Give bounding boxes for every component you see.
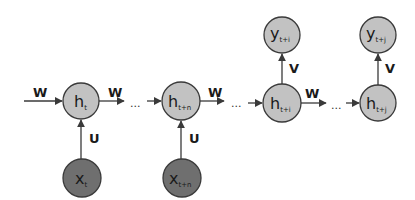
node-h-t-plus-j: ht+j bbox=[360, 85, 396, 121]
node-x-tn-main: x bbox=[169, 169, 178, 188]
node-y-tj-sub: t+j bbox=[375, 36, 386, 44]
node-x-t-sub: t bbox=[84, 181, 87, 189]
node-h-t: ht bbox=[63, 83, 99, 119]
edge-u-2: U bbox=[181, 121, 200, 159]
label-v-1: V bbox=[289, 61, 299, 76]
edge-v-1: V bbox=[282, 54, 299, 84]
node-h-ti-sub: t+i bbox=[280, 106, 291, 114]
node-h-t-plus-n: ht+n bbox=[162, 82, 200, 120]
ellipsis-1: ... bbox=[130, 97, 141, 110]
label-w-input: W bbox=[33, 85, 47, 100]
node-h-tj-main: h bbox=[366, 94, 376, 113]
node-y-ti-main: y bbox=[270, 24, 279, 43]
node-h-tn-main: h bbox=[168, 92, 178, 111]
label-w-1: W bbox=[108, 85, 122, 100]
node-y-t-plus-i: yt+i bbox=[264, 17, 300, 53]
edge-w-hti-out: W ... bbox=[301, 86, 342, 112]
node-x-t-main: x bbox=[75, 169, 84, 188]
node-x-tn-sub: t+n bbox=[178, 181, 191, 189]
edge-w-htn-out: W ... bbox=[200, 85, 242, 110]
node-x-t-plus-n: xt+n bbox=[163, 159, 201, 197]
node-y-t-plus-j: yt+j bbox=[360, 17, 396, 53]
ellipsis-3: ... bbox=[331, 99, 342, 112]
edge-u-1: U bbox=[81, 120, 100, 159]
node-h-t-main: h bbox=[74, 92, 84, 111]
edge-v-2: V bbox=[378, 54, 395, 85]
node-h-t-plus-i: ht+i bbox=[263, 84, 301, 122]
edge-w-ht-out: W ... bbox=[99, 85, 141, 110]
node-h-tn-sub: t+n bbox=[178, 104, 191, 112]
label-w-3: W bbox=[305, 86, 319, 101]
label-w-2: W bbox=[208, 85, 222, 100]
label-v-2: V bbox=[385, 61, 395, 76]
ellipsis-2: ... bbox=[231, 97, 242, 110]
node-h-ti-main: h bbox=[270, 94, 280, 113]
node-x-t: xt bbox=[63, 159, 101, 197]
label-u-1: U bbox=[89, 131, 100, 146]
node-h-tj-sub: t+j bbox=[376, 106, 387, 114]
node-y-ti-sub: t+i bbox=[279, 36, 290, 44]
rnn-unrolled-diagram: W W ... W ... W ... U U V V bbox=[0, 0, 415, 200]
label-u-2: U bbox=[189, 131, 200, 146]
edge-w-input: W bbox=[24, 85, 62, 101]
node-h-t-sub: t bbox=[84, 104, 87, 112]
node-y-tj-main: y bbox=[366, 24, 375, 43]
